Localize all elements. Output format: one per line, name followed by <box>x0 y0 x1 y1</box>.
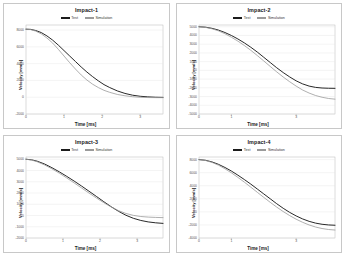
figure-root: Impact-1 Test Simulation Velocity [mm/s]… <box>0 0 345 264</box>
plot-area-impact-4: Velocity [mm/s] Time [ms] 80006000400020… <box>177 154 339 252</box>
chart-panel-impact-1: Impact-1 Test Simulation Velocity [mm/s]… <box>3 3 170 129</box>
legend-label-simulation: Simulation <box>95 16 112 20</box>
chart-legend-impact-4: Test Simulation <box>177 148 341 152</box>
legend-swatch-simulation <box>85 149 94 150</box>
legend-label-simulation: Simulation <box>268 148 285 152</box>
legend-item-test: Test <box>233 148 250 152</box>
legend-swatch-test <box>61 149 70 150</box>
legend-label-test: Test <box>71 148 78 152</box>
chart-title-impact-2: Impact-2 <box>177 7 341 13</box>
legend-item-simulation: Simulation <box>85 16 112 20</box>
chart-cell-impact-1: Impact-1 Test Simulation Velocity [mm/s]… <box>0 0 173 132</box>
plot-svg-impact-1 <box>4 22 167 128</box>
legend-item-simulation: Simulation <box>257 148 284 152</box>
legend-swatch-test <box>233 149 242 150</box>
chart-legend-impact-3: Test Simulation <box>4 148 169 152</box>
plot-area-impact-1: Velocity [mm/s] Time [ms] 80006000400020… <box>4 22 167 128</box>
plot-svg-impact-3 <box>4 154 167 252</box>
plot-area-impact-2: Velocity [mm/s] Time [ms] 50004000300020… <box>177 22 339 128</box>
plot-area-impact-3: Velocity [mm/s] Time [ms] 50004000300020… <box>4 154 167 252</box>
chart-legend-impact-2: Test Simulation <box>177 16 341 20</box>
legend-label-test: Test <box>71 16 78 20</box>
legend-item-test: Test <box>61 148 78 152</box>
chart-title-impact-3: Impact-3 <box>4 139 169 145</box>
chart-panel-impact-4: Impact-4 Test Simulation Velocity [mm/s]… <box>176 135 342 253</box>
chart-cell-impact-4: Impact-4 Test Simulation Velocity [mm/s]… <box>173 132 345 256</box>
legend-swatch-simulation <box>85 17 94 18</box>
chart-panel-impact-2: Impact-2 Test Simulation Velocity [mm/s]… <box>176 3 342 129</box>
legend-item-test: Test <box>61 16 78 20</box>
plot-svg-impact-2 <box>177 22 339 128</box>
legend-item-simulation: Simulation <box>85 148 112 152</box>
chart-cell-impact-3: Impact-3 Test Simulation Velocity [mm/s]… <box>0 132 173 256</box>
chart-legend-impact-1: Test Simulation <box>4 16 169 20</box>
plot-svg-impact-4 <box>177 154 339 252</box>
legend-swatch-test <box>61 17 70 18</box>
legend-item-simulation: Simulation <box>257 16 284 20</box>
chart-title-impact-1: Impact-1 <box>4 7 169 13</box>
legend-label-test: Test <box>244 16 251 20</box>
legend-item-test: Test <box>233 16 250 20</box>
legend-label-test: Test <box>244 148 251 152</box>
legend-swatch-test <box>233 17 242 18</box>
chart-title-impact-4: Impact-4 <box>177 139 341 145</box>
legend-swatch-simulation <box>257 149 266 150</box>
legend-label-simulation: Simulation <box>268 16 285 20</box>
chart-grid: Impact-1 Test Simulation Velocity [mm/s]… <box>0 0 345 256</box>
legend-label-simulation: Simulation <box>95 148 112 152</box>
legend-swatch-simulation <box>257 17 266 18</box>
chart-panel-impact-3: Impact-3 Test Simulation Velocity [mm/s]… <box>3 135 170 253</box>
chart-cell-impact-2: Impact-2 Test Simulation Velocity [mm/s]… <box>173 0 345 132</box>
